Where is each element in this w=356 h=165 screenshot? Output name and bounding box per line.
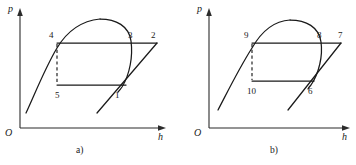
process-line-6-7-b [288, 43, 341, 110]
point-label-3: 3 [128, 30, 133, 40]
h-axis-arrow-a [158, 125, 166, 131]
point-label-5: 5 [55, 90, 60, 100]
point-label-7: 7 [338, 30, 343, 40]
saturation-dome-left-branch-b [218, 20, 290, 110]
p-axis-arrow-a [17, 8, 23, 16]
point-label-2: 2 [151, 30, 156, 40]
p-axis-label-a: p [7, 3, 13, 14]
diagram-a-svg: p h O 4 3 2 5 1 a) [0, 0, 178, 165]
p-axis-arrow-b [206, 8, 212, 16]
origin-label-b: O [194, 127, 201, 138]
panel-caption-b: b) [270, 145, 278, 156]
origin-label-a: O [5, 127, 12, 138]
point-label-8: 8 [317, 30, 322, 40]
point-label-10: 10 [247, 86, 257, 96]
point-label-4: 4 [49, 30, 54, 40]
diagram-panel-a: p h O 4 3 2 5 1 a) [0, 0, 178, 165]
panel-caption-a: a) [76, 145, 83, 156]
h-axis-arrow-b [342, 125, 350, 131]
point-label-9: 9 [244, 30, 249, 40]
saturation-dome-right-branch-a [100, 19, 132, 92]
h-axis-label-a: h [158, 131, 163, 142]
h-axis-label-b: h [342, 131, 347, 142]
saturation-dome-left-branch-a [26, 19, 100, 113]
process-line-1-2-a [97, 43, 157, 113]
diagram-b-svg: p h O 9 8 7 10 6 b) [178, 0, 356, 165]
figure-root: p h O 4 3 2 5 1 a) [0, 0, 356, 165]
point-label-6: 6 [308, 86, 313, 96]
point-label-1: 1 [115, 90, 120, 100]
p-axis-label-b: p [196, 3, 202, 14]
diagram-panel-b: p h O 9 8 7 10 6 b) [178, 0, 356, 165]
